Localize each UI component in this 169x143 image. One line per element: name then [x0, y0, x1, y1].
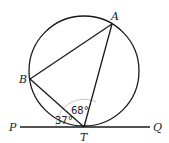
- angle-label-atb: 68°: [71, 105, 89, 116]
- diagram-svg: A B P Q T 37° 68°: [0, 0, 169, 143]
- geometry-diagram: A B P Q T 37° 68°: [0, 0, 169, 143]
- point-label-a: A: [110, 10, 119, 23]
- point-label-p: P: [8, 121, 17, 134]
- point-label-q: Q: [153, 121, 162, 134]
- angle-label-btp: 37°: [55, 115, 73, 126]
- point-label-b: B: [18, 73, 27, 86]
- point-label-t: T: [80, 131, 89, 143]
